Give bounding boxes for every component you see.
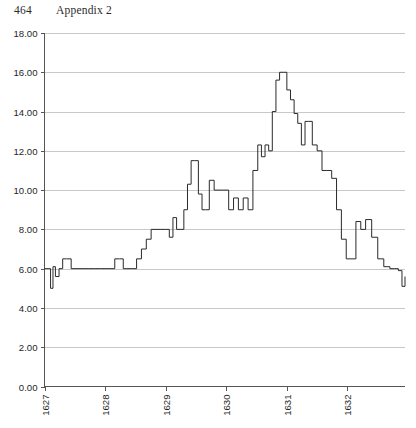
page-header: 464 Appendix 2 [0,0,416,24]
x-axis-tick-label: 1627 [40,395,51,416]
x-axis-tick-label: 1631 [282,395,293,416]
folio-number: 464 [14,4,32,16]
line-chart: 18.0016.0014.0012.0010.008.006.004.002.0… [0,22,416,428]
y-axis-labels-group: 18.0016.0014.0012.0010.008.006.004.002.0… [13,28,37,393]
x-axis-tick-label: 1629 [161,395,172,416]
y-axis-tick-label: 14.00 [13,107,37,118]
x-axis-tick-label: 1632 [342,395,353,416]
y-axis-tick-label: 10.00 [13,185,37,196]
gridlines-group [41,34,406,388]
chart-figure: 18.0016.0014.0012.0010.008.006.004.002.0… [0,22,416,428]
y-axis-tick-label: 2.00 [19,342,38,353]
x-axis-ticks-group [46,387,348,391]
y-axis-tick-label: 18.00 [13,28,37,39]
x-axis-labels-group: 162716281629163016311632 [40,395,353,416]
y-axis-tick-label: 4.00 [19,303,38,314]
y-axis-tick-label: 12.00 [13,146,37,157]
y-axis-tick-label: 6.00 [19,264,38,275]
data-series-line [45,72,406,288]
y-axis-tick-label: 8.00 [19,224,38,235]
y-axis-tick-label: 16.00 [13,67,37,78]
page-title: Appendix 2 [56,4,112,16]
x-axis-tick-label: 1628 [100,395,111,416]
y-axis-tick-label: 0.00 [19,382,38,393]
x-axis-tick-label: 1630 [221,395,232,416]
